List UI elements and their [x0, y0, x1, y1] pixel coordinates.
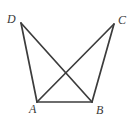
geometry-figure: D C A B — [0, 0, 137, 120]
figure-canvas — [0, 0, 137, 120]
vertex-label-d: D — [7, 13, 16, 25]
segment-db — [21, 23, 92, 102]
vertex-label-c: C — [118, 14, 126, 26]
vertex-label-b: B — [96, 104, 103, 116]
vertex-label-a: A — [29, 103, 36, 115]
segment-da — [21, 23, 37, 102]
